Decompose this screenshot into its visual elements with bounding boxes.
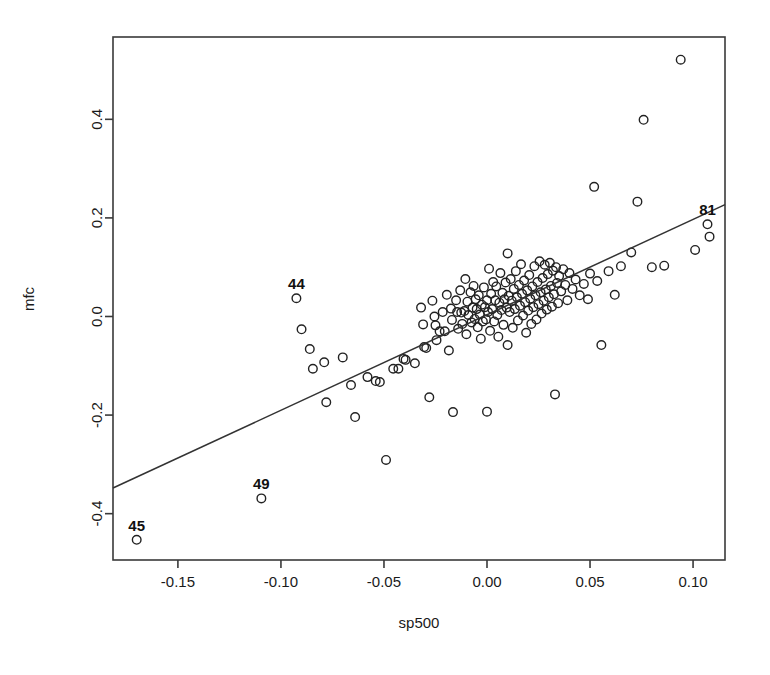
y-tick-label: -0.2 <box>89 402 106 428</box>
x-tick-label: 0.05 <box>575 573 604 590</box>
x-axis-title: sp500 <box>399 614 440 631</box>
chart-figure: -0.15-0.10-0.050.000.050.10 -0.4-0.20.00… <box>0 0 770 675</box>
y-axis-title: mfc <box>20 286 37 311</box>
scatter-plot-svg: -0.15-0.10-0.050.000.050.10 -0.4-0.20.00… <box>0 0 770 675</box>
point-label-44: 44 <box>288 275 305 292</box>
y-tick-label: 0.0 <box>89 306 106 327</box>
x-tick-label: 0.10 <box>678 573 707 590</box>
x-tick-label: 0.00 <box>472 573 501 590</box>
point-label-45: 45 <box>128 517 145 534</box>
x-tick-label: -0.15 <box>161 573 195 590</box>
x-tick-label: -0.05 <box>367 573 401 590</box>
y-tick-label: 0.2 <box>89 207 106 228</box>
x-tick-label: -0.10 <box>264 573 298 590</box>
point-label-81: 81 <box>699 201 716 218</box>
y-tick-label: 0.4 <box>89 109 106 130</box>
point-label-49: 49 <box>253 475 270 492</box>
y-tick-label: -0.4 <box>89 501 106 527</box>
